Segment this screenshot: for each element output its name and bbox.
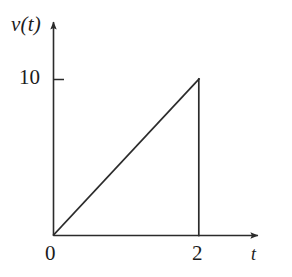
ramp-segment <box>54 79 200 235</box>
x-axis-label: t <box>251 245 256 263</box>
plot-canvas <box>0 0 292 277</box>
x-tick-label-2: 2 <box>192 243 203 264</box>
velocity-time-graph-figure: v(t) 10 0 2 t <box>0 0 292 277</box>
y-tick-label-10: 10 <box>19 67 40 88</box>
y-axis-label: v(t) <box>11 14 41 35</box>
x-tick-label-0: 0 <box>45 243 56 264</box>
